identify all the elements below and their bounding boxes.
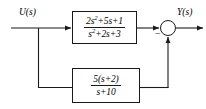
feedback-denominator: s+10 xyxy=(91,86,120,97)
forward-denominator: s2+2s+3 xyxy=(84,28,125,39)
output-signal-label: Y(s) xyxy=(177,7,192,17)
forward-num-term2: +5s+1 xyxy=(97,16,123,26)
forward-num-term1: 2s xyxy=(86,16,94,26)
forward-path-block: 2s2+5s+1 s2+2s+3 xyxy=(72,11,137,44)
feedback-numerator: 5(s+2) xyxy=(91,74,120,86)
feedback-path-block: 5(s+2) s+10 xyxy=(72,68,140,103)
summing-junction-minus-sign: − xyxy=(155,29,161,39)
forward-numerator: 2s2+5s+1 xyxy=(84,16,125,28)
forward-den-term2: +2s+3 xyxy=(95,29,121,39)
forward-transfer-function: 2s2+5s+1 s2+2s+3 xyxy=(84,16,125,39)
summing-junction xyxy=(160,20,176,36)
block-diagram: U(s) Y(s) 2s2+5s+1 s2+2s+3 5(s+2) s+10 − xyxy=(0,0,206,109)
feedback-transfer-function: 5(s+2) s+10 xyxy=(91,74,120,97)
input-signal-label: U(s) xyxy=(19,7,36,17)
